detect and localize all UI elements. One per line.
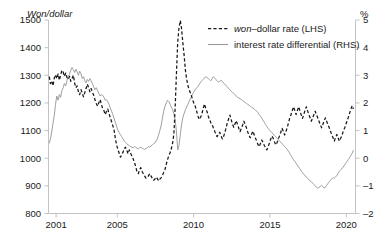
x-tick-label: 2001 bbox=[46, 219, 67, 230]
right-tick-label: 3 bbox=[363, 70, 368, 81]
x-tick-label: 2015 bbox=[259, 219, 280, 230]
left-tick-label: 1300 bbox=[20, 70, 41, 81]
right-tick-label: 2 bbox=[363, 97, 368, 108]
left-tick-label: 1100 bbox=[21, 125, 41, 136]
right-tick-label: 4 bbox=[363, 42, 368, 53]
x-tick-label: 2020 bbox=[336, 219, 357, 230]
right-tick-label: 5 bbox=[363, 14, 368, 25]
series-interest-rate-differential bbox=[49, 68, 353, 189]
left-tick-label: 1000 bbox=[20, 153, 41, 164]
chart-legend: won–dollar rate (LHS) interest rate diff… bbox=[208, 23, 360, 50]
right-tick-label: –2 bbox=[363, 208, 374, 219]
x-tick-label: 2010 bbox=[183, 219, 204, 230]
right-tick-label: 0 bbox=[363, 153, 368, 164]
line-chart: Won/dollar % 800900100011001200130014001… bbox=[0, 0, 392, 245]
left-tick-label: 1500 bbox=[20, 14, 41, 25]
x-axis-ticks: 20012005201020152020 bbox=[46, 214, 357, 231]
x-tick-label: 2005 bbox=[107, 219, 128, 230]
legend-label-interest-differential: interest rate differential (RHS) bbox=[234, 39, 360, 50]
left-tick-label: 1400 bbox=[20, 42, 41, 53]
chart-figure: Won/dollar % 800900100011001200130014001… bbox=[0, 0, 392, 245]
left-tick-label: 800 bbox=[25, 208, 41, 219]
left-tick-label: 900 bbox=[25, 180, 41, 191]
left-axis-ticks: 800900100011001200130014001500 bbox=[20, 14, 49, 219]
right-tick-label: 1 bbox=[363, 125, 368, 136]
left-tick-label: 1200 bbox=[20, 97, 41, 108]
legend-label-won-dollar: won–dollar rate (LHS) bbox=[234, 23, 326, 34]
right-tick-label: –1 bbox=[363, 180, 374, 191]
